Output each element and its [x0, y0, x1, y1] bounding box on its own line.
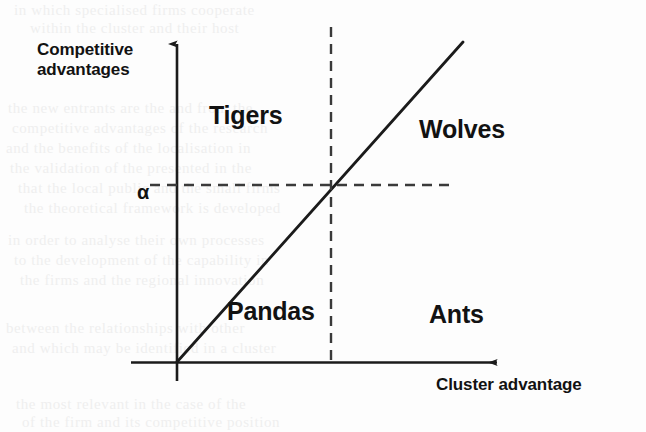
alpha-threshold-label: α	[137, 181, 149, 205]
quadrant-diagram: in which specialised firms cooperate wit…	[0, 0, 646, 432]
y-axis-label: Competitive advantages	[37, 40, 133, 80]
quadrant-label-wolves: Wolves	[419, 115, 505, 145]
quadrant-label-ants: Ants	[429, 300, 484, 330]
quadrant-label-pandas: Pandas	[227, 297, 315, 327]
diagonal-reference-line	[177, 42, 463, 362]
y-axis-label-line2: advantages	[37, 60, 130, 79]
x-axis-label: Cluster advantage	[436, 375, 582, 395]
quadrant-label-tigers: Tigers	[209, 101, 282, 131]
y-axis-label-line1: Competitive	[37, 40, 133, 59]
